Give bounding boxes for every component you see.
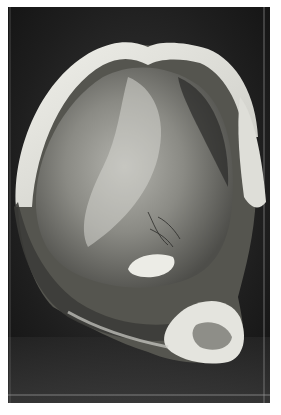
specimen-photograph <box>8 7 270 403</box>
specimen-illustration <box>8 7 270 403</box>
